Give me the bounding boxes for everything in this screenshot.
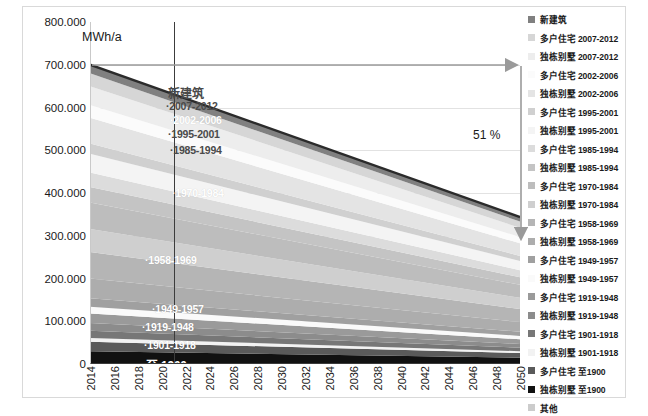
legend-item[interactable]: 多户住宅 1949-1957: [528, 251, 646, 270]
band-label: ·1958-1969: [145, 254, 197, 266]
x-axis-tick-label: 2014: [85, 366, 97, 390]
chart-root: 800.000700.000600.000500.000400.000300.0…: [0, 0, 648, 416]
legend-label: 新建筑: [540, 13, 567, 25]
legend-label: 独栋别墅 2007-2012: [540, 50, 618, 62]
y-axis-unit-label: MWh/a: [82, 30, 122, 44]
legend-item[interactable]: 独栋别墅 1958-1969: [528, 232, 646, 251]
legend-swatch: [528, 367, 535, 374]
legend-label: 多户住宅 1970-1984: [540, 180, 618, 192]
legend-label: 独栋别墅 1995-2001: [540, 124, 618, 136]
legend-label: 多户住宅 1919-1948: [540, 291, 618, 303]
legend-swatch: [528, 238, 535, 245]
legend-label: 多户住宅 1985-1994: [540, 143, 618, 155]
legend-item[interactable]: 新建筑: [528, 10, 646, 29]
band-label: ·1985-1994: [170, 144, 222, 156]
legend-label: 独栋别墅 1970-1984: [540, 198, 618, 210]
band-label: 新建筑: [168, 84, 203, 101]
legend-swatch: [528, 71, 535, 78]
legend-swatch: [528, 312, 535, 319]
legend-label: 多户住宅 1901-1918: [540, 328, 618, 340]
x-axis-tick-label: 2044: [443, 366, 455, 390]
legend-item[interactable]: 多户住宅 1970-1984: [528, 177, 646, 196]
legend-swatch: [528, 349, 535, 356]
legend-swatch: [528, 16, 535, 23]
legend-label: 独栋别墅 至1900: [540, 383, 606, 395]
x-axis-tick-label: 2042: [419, 366, 431, 390]
reduction-percent-label: 51 %: [473, 128, 500, 142]
x-axis-tick-label: 2048: [491, 366, 503, 390]
x-axis-tick-label: 2046: [467, 366, 479, 390]
x-axis-tick-label: 2030: [276, 366, 288, 390]
legend-swatch: [528, 34, 535, 41]
x-axis-tick-label: 2024: [204, 366, 216, 390]
band-label: ·1901-1918: [144, 339, 196, 351]
legend-swatch: [528, 164, 535, 171]
x-axis-tick-label: 2022: [181, 366, 193, 390]
legend-item[interactable]: 独栋别墅 1901-1918: [528, 343, 646, 362]
figure-caption: [24, 404, 624, 414]
x-axis-tick-label: 2034: [324, 366, 336, 390]
legend-label: 多户住宅 2002-2006: [540, 69, 618, 81]
legend-item[interactable]: 独栋别墅 1985-1994: [528, 158, 646, 177]
legend: 新建筑多户住宅 2007-2012独栋别墅 2007-2012多户住宅 2002…: [528, 10, 646, 404]
legend-label: 独栋别墅 1949-1957: [540, 272, 618, 284]
y-axis-tick-label: 600.000: [44, 102, 86, 114]
legend-swatch: [528, 201, 535, 208]
legend-swatch: [528, 256, 535, 263]
legend-label: 多户住宅 至1900: [540, 365, 606, 377]
legend-item[interactable]: 独栋别墅 1919-1948: [528, 306, 646, 325]
legend-item[interactable]: 独栋别墅 2007-2012: [528, 47, 646, 66]
y-axis-tick-label: 100.000: [44, 315, 86, 327]
y-axis-tick-label: 300.000: [44, 230, 86, 242]
legend-item[interactable]: 独栋别墅 1970-1984: [528, 195, 646, 214]
x-axis-tick-label: 2038: [372, 366, 384, 390]
legend-label: 独栋别墅 1958-1969: [540, 235, 618, 247]
band-label: 至 1900: [146, 356, 187, 364]
x-axis-tick-label: 2020: [157, 366, 169, 390]
legend-item[interactable]: 多户住宅 2007-2012: [528, 29, 646, 48]
x-axis-tick-label: 2050: [515, 366, 527, 390]
y-axis-tick-label: 800.000: [44, 16, 86, 28]
legend-item[interactable]: 多户住宅 1995-2001: [528, 103, 646, 122]
legend-label: 多户住宅 1995-2001: [540, 106, 618, 118]
y-axis-tick-label: 700.000: [44, 59, 86, 71]
legend-label: 独栋别墅 2002-2006: [540, 87, 618, 99]
x-axis-tick-label: 2032: [300, 366, 312, 390]
x-axis-tick-label: 2018: [133, 366, 145, 390]
y-axis-tick-label: 500.000: [44, 144, 86, 156]
legend-swatch: [528, 386, 535, 393]
plot-area: 新建筑·2007-2012·2002-2006·1995-2001·1985-1…: [90, 22, 520, 364]
band-label: ·1995-2001: [168, 128, 220, 140]
band-label: ·2002-2006: [170, 114, 222, 126]
legend-swatch: [528, 108, 535, 115]
band-label: ·1919-1948: [142, 321, 194, 333]
y-axis-tick-label: 400.000: [44, 187, 86, 199]
legend-item[interactable]: 多户住宅 1919-1948: [528, 288, 646, 307]
y-axis: 800.000700.000600.000500.000400.000300.0…: [24, 8, 90, 360]
legend-label: 多户住宅 2007-2012: [540, 32, 618, 44]
legend-label: 独栋别墅 1985-1994: [540, 161, 618, 173]
legend-item[interactable]: 多户住宅 2002-2006: [528, 66, 646, 85]
legend-item[interactable]: 多户住宅 1985-1994: [528, 140, 646, 159]
legend-item[interactable]: 多户住宅 至1900: [528, 362, 646, 381]
legend-label: 独栋别墅 1901-1918: [540, 346, 618, 358]
legend-item[interactable]: 多户住宅 1958-1969: [528, 214, 646, 233]
band-label: ·1970-1984: [172, 187, 224, 199]
x-axis-tick-label: 2016: [109, 366, 121, 390]
legend-item[interactable]: 独栋别墅 2002-2006: [528, 84, 646, 103]
legend-item[interactable]: 独栋别墅 1949-1957: [528, 269, 646, 288]
legend-swatch: [528, 293, 535, 300]
legend-swatch: [528, 275, 535, 282]
band-label: ·2007-2012: [166, 100, 218, 112]
legend-item[interactable]: 多户住宅 1901-1918: [528, 325, 646, 344]
legend-item[interactable]: 独栋别墅 1995-2001: [528, 121, 646, 140]
legend-item[interactable]: 独栋别墅 至1900: [528, 380, 646, 399]
x-axis-tick-label: 2026: [228, 366, 240, 390]
x-axis-tick-label: 2040: [396, 366, 408, 390]
legend-swatch: [528, 145, 535, 152]
legend-swatch: [528, 127, 535, 134]
x-axis-tick-label: 2036: [348, 366, 360, 390]
legend-swatch: [528, 90, 535, 97]
legend-label: 独栋别墅 1919-1948: [540, 309, 618, 321]
x-axis-tick-label: 2028: [252, 366, 264, 390]
